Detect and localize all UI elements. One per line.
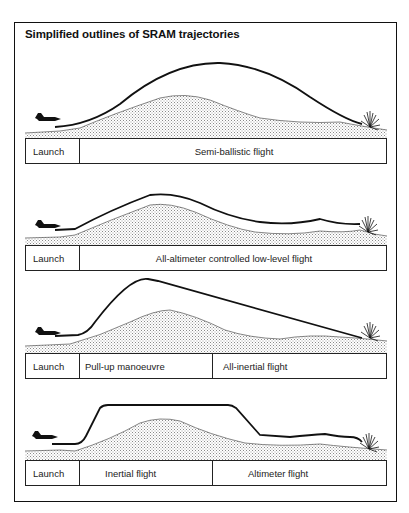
phase-launch: Launch <box>26 246 79 270</box>
panel-2-phases: Launch All-altimeter controlled low-leve… <box>25 245 387 271</box>
phase-low-level: All-altimeter controlled low-level fligh… <box>79 246 388 270</box>
terrain <box>25 419 387 460</box>
panel-4-graphic <box>25 405 387 460</box>
terrain <box>25 95 387 138</box>
phase-launch: Launch <box>26 139 79 163</box>
phase-launch: Launch <box>26 461 79 485</box>
panel-2-graphic <box>25 194 387 245</box>
aircraft-icon <box>35 113 61 121</box>
phase-inertial: Inertial flight <box>79 461 212 485</box>
explosion-icon <box>361 322 380 341</box>
panel-3-phases: Launch Pull-up manoeuvre All-inertial fl… <box>25 353 387 379</box>
terrain <box>25 204 387 245</box>
phase-launch: Launch <box>26 354 79 378</box>
phase-altimeter: Altimeter flight <box>212 461 388 485</box>
aircraft-icon <box>35 327 61 335</box>
panel-1-phases: Launch Semi-ballistic flight <box>25 138 387 164</box>
phase-all-inertial: All-inertial flight <box>212 354 388 378</box>
aircraft-icon <box>35 220 61 228</box>
panel-3-graphic <box>25 279 387 353</box>
phase-pull-up: Pull-up manoeuvre <box>79 354 212 378</box>
panel-1-graphic <box>25 63 387 138</box>
aircraft-icon <box>32 431 58 439</box>
panel-4-phases: Launch Inertial flight Altimeter flight <box>25 460 387 486</box>
phase-semi-ballistic: Semi-ballistic flight <box>79 139 388 163</box>
terrain <box>25 310 387 353</box>
